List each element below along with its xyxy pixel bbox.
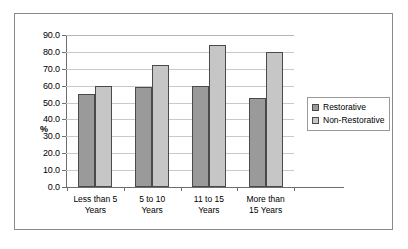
y-tick-10 [62, 170, 66, 171]
bar-group [67, 35, 124, 187]
chart-legend: Restorative Non-Restorative [307, 97, 390, 131]
x-tick [237, 187, 238, 191]
y-tick-20 [62, 153, 66, 154]
legend-item-non-restorative: Non-Restorative [312, 114, 384, 127]
y-axis-title: % [40, 124, 48, 134]
category-label-line: 11 to 15 [194, 194, 224, 204]
legend-swatch-non-restorative [312, 117, 319, 124]
x-tick [124, 187, 125, 191]
y-tick-label-90: 90.0 [43, 31, 60, 40]
y-tick-label-10: 10.0 [43, 166, 60, 175]
category-label-line: 5 to 10 [139, 194, 165, 204]
y-tick-label-0: 0.0 [48, 183, 60, 192]
category-label-line: Years [181, 205, 238, 216]
y-tick-70 [62, 69, 66, 70]
bar[interactable] [249, 98, 266, 188]
category-label: 11 to 15Years [181, 194, 238, 215]
legend-label-non-restorative: Non-Restorative [323, 116, 384, 125]
y-tick-80 [62, 52, 66, 53]
category-axis-line [66, 187, 344, 188]
bar[interactable] [95, 86, 112, 187]
x-tick [181, 187, 182, 191]
category-label-line: More than [246, 194, 284, 204]
category-label: 5 to 10Years [124, 194, 181, 215]
bar[interactable] [209, 45, 226, 187]
category-label-line: 15 Years [237, 205, 294, 216]
y-tick-label-20: 20.0 [43, 149, 60, 158]
y-tick-40 [62, 119, 66, 120]
bar-series-container [67, 35, 294, 187]
bar[interactable] [78, 94, 95, 187]
y-tick-label-80: 80.0 [43, 48, 60, 57]
bar-group [181, 35, 238, 187]
bar[interactable] [266, 52, 283, 187]
bar[interactable] [135, 87, 152, 187]
chart-frame: 90.080.070.060.050.040.030.020.010.00.0 … [14, 13, 393, 230]
category-label: Less than 5Years [67, 194, 124, 215]
y-tick-label-60: 60.0 [43, 82, 60, 91]
y-tick-60 [62, 86, 66, 87]
bar-group [237, 35, 294, 187]
category-label-line: Years [124, 205, 181, 216]
y-tick-90 [62, 35, 66, 36]
legend-label-restorative: Restorative [323, 103, 366, 112]
chart-screenshot: 90.080.070.060.050.040.030.020.010.00.0 … [0, 0, 408, 249]
y-tick-label-70: 70.0 [43, 65, 60, 74]
y-tick-50 [62, 103, 66, 104]
category-label: More than15 Years [237, 194, 294, 215]
legend-item-restorative: Restorative [312, 101, 384, 114]
x-tick [67, 187, 68, 191]
bar[interactable] [152, 65, 169, 187]
x-tick [294, 187, 295, 191]
legend-swatch-restorative [312, 104, 319, 111]
y-tick-30 [62, 136, 66, 137]
category-labels: Less than 5Years5 to 10Years11 to 15Year… [67, 194, 294, 215]
bar-group [124, 35, 181, 187]
category-label-line: Less than 5 [73, 194, 117, 204]
bar[interactable] [192, 86, 209, 187]
y-tick-0 [62, 187, 66, 188]
category-label-line: Years [67, 205, 124, 216]
y-tick-label-50: 50.0 [43, 99, 60, 108]
